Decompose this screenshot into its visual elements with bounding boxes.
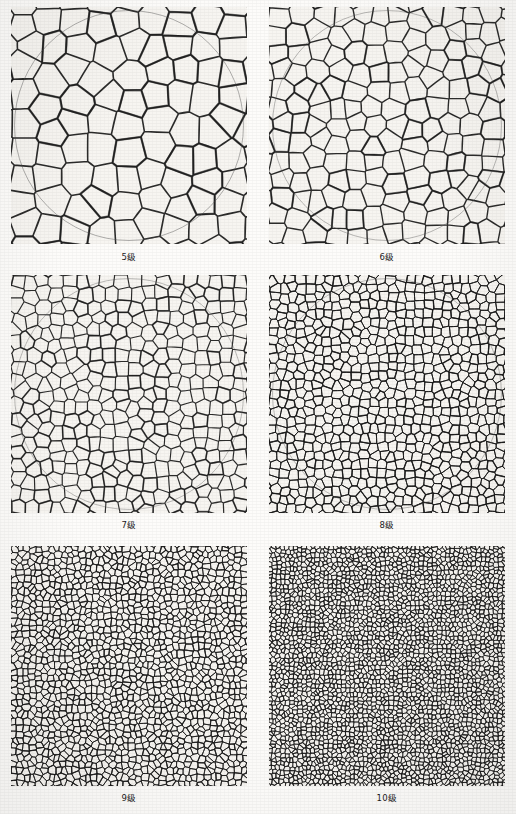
micrograph-grade-10	[269, 546, 505, 786]
micrograph-grade-5	[11, 7, 247, 244]
panel-cell-grade-9: 9级	[0, 542, 258, 814]
grain-structure-svg-8	[269, 275, 505, 513]
micrograph-grade-8	[269, 275, 505, 513]
panel-cell-grade-8: 8级	[258, 270, 516, 542]
micrograph-grade-6	[269, 7, 505, 244]
panel-cell-grade-7: 7级	[0, 270, 258, 542]
grain-structure-svg-5	[11, 7, 247, 244]
grain-structure-svg-6	[269, 7, 505, 244]
panel-caption-grade-6: 6级	[379, 253, 394, 262]
panel-cell-grade-10: 10级	[258, 542, 516, 814]
panel-grid: 5级 6级 7级 8级 9级	[0, 0, 516, 814]
grain-structure-svg-9	[11, 546, 247, 786]
grain-structure-svg-7	[11, 275, 247, 513]
micrograph-grade-9	[11, 546, 247, 786]
panel-caption-grade-10: 10级	[376, 794, 397, 803]
grain-structure-svg-10	[269, 546, 505, 786]
panel-caption-grade-8: 8级	[379, 521, 394, 530]
micrograph-grade-7	[11, 275, 247, 513]
panel-caption-grade-5: 5级	[121, 253, 136, 262]
panel-caption-grade-9: 9级	[121, 794, 136, 803]
grain-size-comparison-chart: 5级 6级 7级 8级 9级	[0, 0, 516, 814]
panel-cell-grade-6: 6级	[258, 0, 516, 270]
panel-caption-grade-7: 7级	[121, 521, 136, 530]
panel-cell-grade-5: 5级	[0, 0, 258, 270]
